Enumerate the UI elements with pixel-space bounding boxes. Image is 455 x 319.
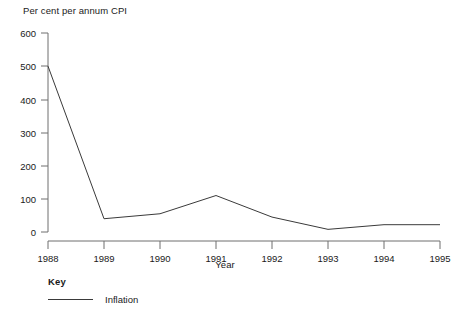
legend-item-inflation: Inflation bbox=[48, 293, 138, 305]
chart-legend: Key Inflation bbox=[48, 276, 138, 305]
y-tick-label-300: 300 bbox=[6, 128, 36, 139]
y-tick-label-600: 600 bbox=[6, 28, 36, 39]
x-axis-title-text: Year bbox=[215, 259, 235, 270]
legend-line-swatch-icon bbox=[48, 299, 93, 300]
legend-title: Key bbox=[48, 276, 138, 287]
y-tick-label-400: 400 bbox=[6, 95, 36, 106]
y-tick-label-200: 200 bbox=[6, 161, 36, 172]
series-line-inflation bbox=[48, 66, 440, 229]
x-axis-title: Year bbox=[0, 259, 450, 270]
y-tick-label-0: 0 bbox=[6, 227, 36, 238]
legend-item-label: Inflation bbox=[105, 294, 138, 305]
y-tick-label-500: 500 bbox=[6, 61, 36, 72]
y-tick-label-100: 100 bbox=[6, 194, 36, 205]
